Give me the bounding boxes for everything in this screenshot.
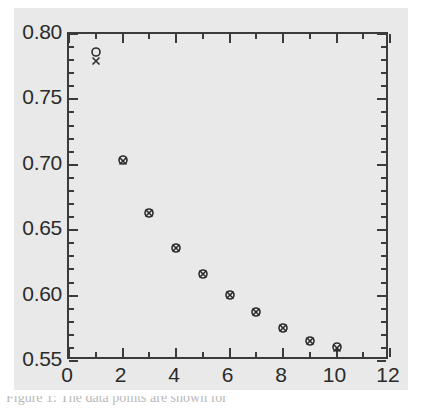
axis-tick	[175, 34, 177, 43]
y-axis-tick-label: 0.65	[22, 216, 62, 240]
y-axis-tick-label: 0.55	[22, 347, 62, 371]
axis-tick	[381, 203, 386, 205]
axis-tick	[381, 46, 386, 48]
axis-tick	[95, 34, 97, 39]
axis-tick	[362, 34, 364, 39]
caption-text: Figure 1: The data points are shown for	[6, 396, 227, 406]
data-point-x	[171, 243, 182, 254]
axis-tick	[148, 34, 150, 39]
axis-tick	[69, 190, 74, 192]
axis-tick	[69, 177, 74, 179]
axis-tick	[381, 190, 386, 192]
axis-tick	[202, 352, 204, 357]
y-axis-tick-label: 0.70	[22, 151, 62, 175]
axis-tick	[389, 34, 391, 43]
data-point-circle	[278, 322, 289, 333]
axis-tick	[381, 177, 386, 179]
data-point-x	[144, 207, 155, 218]
data-point-x	[251, 307, 262, 318]
axis-tick	[377, 33, 386, 35]
axis-tick	[202, 34, 204, 39]
axis-tick	[69, 138, 74, 140]
axis-tick	[69, 203, 74, 205]
axis-tick	[122, 348, 124, 357]
data-point-circle	[90, 47, 101, 58]
axis-tick	[377, 98, 386, 100]
axis-tick	[69, 268, 74, 270]
axis-tick	[381, 138, 386, 140]
x-axis-labels: 024681012	[67, 363, 388, 393]
axis-tick	[68, 34, 70, 43]
axis-tick	[381, 111, 386, 113]
axis-tick	[381, 255, 386, 257]
axis-tick	[255, 352, 257, 357]
data-point-x	[117, 156, 128, 167]
axis-tick	[381, 347, 386, 349]
axis-tick	[229, 348, 231, 357]
axis-tick	[95, 352, 97, 357]
axis-tick	[336, 34, 338, 43]
axis-tick	[381, 321, 386, 323]
axis-tick	[389, 348, 391, 357]
y-axis-tick-label: 0.80	[22, 20, 62, 44]
data-point-x	[197, 269, 208, 280]
axis-tick	[381, 242, 386, 244]
data-point-x	[278, 322, 289, 333]
y-axis-labels: 0.550.600.650.700.750.80	[0, 32, 62, 359]
axis-tick	[336, 348, 338, 357]
y-axis-tick-label: 0.75	[22, 85, 62, 109]
figure-root: 0.550.600.650.700.750.80 024681012 Figur…	[0, 0, 422, 409]
x-axis-tick-label: 12	[376, 363, 399, 387]
axis-tick	[377, 360, 386, 362]
axis-tick	[69, 216, 74, 218]
data-point-circle	[251, 306, 262, 317]
axis-tick	[69, 72, 74, 74]
data-point-circle	[144, 207, 155, 218]
axis-tick	[69, 295, 78, 297]
axis-tick	[377, 164, 386, 166]
axis-tick	[381, 216, 386, 218]
data-point-circle	[171, 242, 182, 253]
axis-tick	[122, 34, 124, 43]
y-axis-tick-label: 0.60	[22, 282, 62, 306]
data-point-circle	[224, 289, 235, 300]
axis-tick	[69, 282, 74, 284]
axis-tick	[69, 59, 74, 61]
axis-tick	[69, 229, 78, 231]
axis-tick	[69, 255, 74, 257]
plot-frame	[67, 32, 388, 359]
axis-tick	[175, 348, 177, 357]
data-point-circle	[117, 155, 128, 166]
data-point-x	[304, 335, 315, 346]
axis-tick	[69, 164, 78, 166]
axis-tick	[69, 98, 78, 100]
axis-tick	[381, 59, 386, 61]
axis-tick	[381, 282, 386, 284]
axis-tick	[69, 33, 78, 35]
x-axis-tick-label: 4	[168, 363, 180, 387]
axis-tick	[309, 352, 311, 357]
axis-tick	[69, 151, 74, 153]
axis-tick	[148, 352, 150, 357]
data-point-circle	[197, 269, 208, 280]
axis-tick	[309, 34, 311, 39]
axis-tick	[69, 321, 74, 323]
axis-tick	[69, 308, 74, 310]
axis-tick	[282, 34, 284, 43]
axis-tick	[362, 352, 364, 357]
axis-tick	[381, 125, 386, 127]
axis-tick	[69, 242, 74, 244]
x-axis-tick-label: 10	[323, 363, 346, 387]
axis-tick	[229, 34, 231, 43]
axis-tick	[381, 268, 386, 270]
axis-tick	[381, 72, 386, 74]
axis-tick	[69, 46, 74, 48]
data-point-x	[90, 56, 101, 67]
axis-tick	[377, 229, 386, 231]
axis-tick	[69, 111, 74, 113]
axis-tick	[381, 151, 386, 153]
axis-tick	[68, 348, 70, 357]
axis-tick	[69, 334, 74, 336]
x-axis-tick-label: 8	[275, 363, 287, 387]
axis-tick	[377, 295, 386, 297]
